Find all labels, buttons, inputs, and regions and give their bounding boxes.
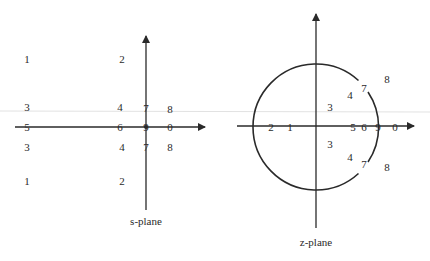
s-plane-region-label-8: 8 [167,103,173,115]
s-plane-region-label-3: 3 [24,101,30,113]
s-plane-region-label-4: 4 [117,101,123,113]
s-plane-region-label-6: 6 [117,121,123,133]
z-plane-region-label-4: 4 [347,151,353,163]
z-plane-region-label-4: 4 [347,89,353,101]
scan-artifact-line [0,111,430,112]
z-plane-region-label-8: 8 [384,161,390,173]
z-plane-region-label-8: 8 [384,73,390,85]
s-plane-region-label-8: 8 [167,141,173,153]
z-plane-region-label-7: 7 [361,158,367,170]
s-plane-region-label-5: 5 [24,121,30,133]
z-plane-region-label-7: 7 [361,82,367,94]
z-plane-region-label-1: 1 [287,121,293,133]
z-plane-region-label-0: 0 [392,121,398,133]
s-plane-region-label-9: 9 [143,121,149,133]
s-plane-region-label-7: 7 [143,141,149,153]
s-plane-caption: s-plane [130,215,162,227]
z-plane-region-label-2: 2 [268,121,274,133]
s-plane-region-label-7: 7 [143,102,149,114]
z-plane: 87432156903478 z-plane [237,14,414,248]
s-plane-region-labels: 1234785690347812 [24,53,173,187]
s-plane: 1234785690347812 s-plane [15,36,205,227]
z-plane-caption: z-plane [300,236,332,248]
s-plane-region-label-4: 4 [119,141,125,153]
z-plane-region-label-6: 6 [361,121,367,133]
s-to-z-mapping-diagram: 1234785690347812 s-plane 87432156903478 … [0,0,430,261]
z-plane-region-label-9: 9 [375,121,381,133]
z-plane-region-labels: 87432156903478 [268,73,398,173]
s-plane-region-label-0: 0 [167,121,173,133]
s-plane-region-label-2: 2 [119,53,125,65]
s-plane-region-label-3: 3 [24,141,30,153]
s-plane-region-label-2: 2 [119,175,125,187]
z-plane-region-label-3: 3 [327,138,333,150]
s-plane-region-label-1: 1 [24,53,30,65]
z-plane-region-label-5: 5 [350,121,356,133]
z-plane-region-label-3: 3 [327,101,333,113]
s-plane-region-label-1: 1 [24,175,30,187]
